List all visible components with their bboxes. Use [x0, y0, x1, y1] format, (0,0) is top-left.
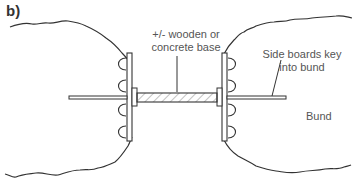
base-annotation-line1: +/- wooden or: [147, 28, 225, 41]
side-boards-annotation-line1: Side boards key: [256, 48, 348, 61]
side-boards-annotation: Side boards key into bund: [256, 48, 348, 74]
left-side-board: [127, 53, 132, 141]
side-boards-annotation-line2: into bund: [256, 61, 348, 74]
hatched-base: [137, 93, 217, 102]
right-key-board: [227, 96, 286, 99]
bund-label: Bund: [306, 110, 332, 123]
right-cleat: [217, 88, 222, 106]
left-key-board: [69, 96, 127, 99]
right-side-board: [222, 53, 227, 141]
diagram-canvas: b): [0, 0, 354, 186]
left-bund-top-outline: [10, 21, 130, 62]
base-annotation-line2: concrete base: [147, 41, 225, 54]
left-cleat: [132, 88, 137, 106]
base-annotation: +/- wooden or concrete base: [147, 28, 225, 54]
left-bund-bottom-outline: [5, 137, 132, 177]
right-bund-bottom-outline: [224, 140, 351, 173]
